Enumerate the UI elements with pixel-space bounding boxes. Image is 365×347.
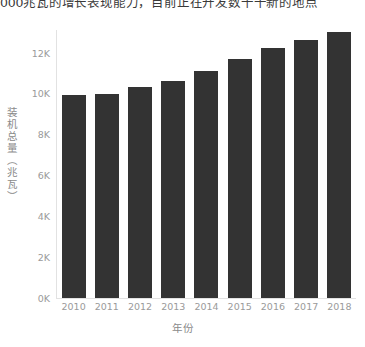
x-axis-tick-labels: 201020112012201320142015201620172018 <box>57 301 356 312</box>
bar-series <box>57 30 356 298</box>
bar-slot <box>290 30 323 298</box>
x-axis-tick-label: 2010 <box>57 301 90 312</box>
y-axis-tick-label: 4K <box>38 211 50 222</box>
bar-slot <box>90 30 123 298</box>
y-axis-tick-label: 6K <box>38 170 50 181</box>
y-axis-tick-label: 2K <box>38 252 50 263</box>
x-axis-line <box>56 298 356 299</box>
bar-chart: 装机总量（兆瓦） 0K2K4K6K8K10K12K 20102011201220… <box>0 12 365 347</box>
x-axis-tick-label: 2018 <box>323 301 356 312</box>
x-axis-tick-label: 2016 <box>256 301 289 312</box>
y-axis-tick-label: 0K <box>38 293 50 304</box>
bar-slot <box>157 30 190 298</box>
x-axis-tick-label: 2014 <box>190 301 223 312</box>
x-axis-tick-label: 2011 <box>90 301 123 312</box>
bar-slot <box>57 30 90 298</box>
page-caption: 000兆瓦的增长表现能力，目前正在开发数千千新的地点 <box>0 0 365 9</box>
bar[interactable] <box>294 40 318 298</box>
x-axis-tick-label: 2012 <box>123 301 156 312</box>
bar[interactable] <box>128 87 152 298</box>
bar[interactable] <box>62 95 86 298</box>
bar-slot <box>123 30 156 298</box>
bar-slot <box>223 30 256 298</box>
y-axis-title: 装机总量（兆瓦） <box>1 107 17 203</box>
y-axis-tick-labels: 0K2K4K6K8K10K12K <box>18 12 50 312</box>
bar[interactable] <box>261 48 285 298</box>
bar[interactable] <box>161 81 185 298</box>
bar-slot <box>190 30 223 298</box>
x-axis-tick-label: 2013 <box>157 301 190 312</box>
bar-slot <box>323 30 356 298</box>
y-axis-tick-label: 12K <box>32 47 50 58</box>
bar[interactable] <box>95 94 119 298</box>
y-axis-tick-label: 8K <box>38 129 50 140</box>
bar[interactable] <box>228 59 252 298</box>
x-axis-tick-label: 2017 <box>290 301 323 312</box>
bar[interactable] <box>194 71 218 298</box>
x-axis-tick-label: 2015 <box>223 301 256 312</box>
y-axis-tick-label: 10K <box>32 88 50 99</box>
x-axis-title: 年份 <box>0 320 365 335</box>
bar-slot <box>256 30 289 298</box>
bar[interactable] <box>327 32 351 298</box>
